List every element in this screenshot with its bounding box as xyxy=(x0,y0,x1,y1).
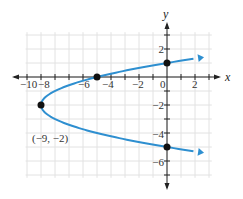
data-point xyxy=(164,144,171,151)
curve-arrow-bottom xyxy=(198,148,205,156)
curve-arrow-top xyxy=(198,54,205,62)
grid xyxy=(26,32,212,178)
vertex-label: (−9, −2) xyxy=(32,132,69,145)
x-tick-labels: −10 −8 −6 −4 −2 0 2 xyxy=(20,78,198,90)
x-tick-label: −10 xyxy=(20,78,38,90)
y-tick-labels: 2 −2 −4 −6 xyxy=(152,43,164,168)
x-axis-label: x xyxy=(224,70,231,84)
x-tick-label: −2 xyxy=(132,78,144,90)
x-tick-label: −8 xyxy=(38,78,50,90)
y-tick-label: −2 xyxy=(152,99,164,111)
y-axis-label: y xyxy=(162,7,169,21)
data-point xyxy=(94,74,101,81)
data-point xyxy=(164,60,171,67)
x-tick-label: 0 xyxy=(160,78,166,90)
y-tick-label: −4 xyxy=(152,128,164,140)
y-tick-label: 2 xyxy=(159,43,165,55)
x-tick-label: 2 xyxy=(192,78,198,90)
data-point xyxy=(38,102,45,109)
y-tick-label: −6 xyxy=(152,156,164,168)
parabola-graph: x y −10 −8 −6 −4 −2 0 2 2 −2 −4 −6 (−9, … xyxy=(0,0,243,199)
x-tick-label: −4 xyxy=(102,78,114,90)
